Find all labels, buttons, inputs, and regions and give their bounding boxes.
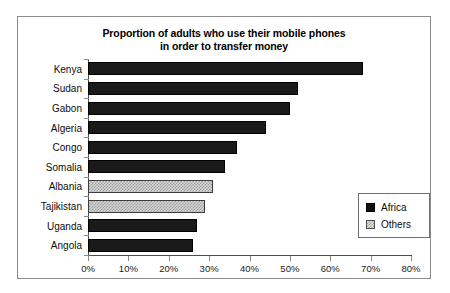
chart-frame: Proportion of adults who use their mobil… xyxy=(17,16,431,279)
category-label-kenya: Kenya xyxy=(54,63,82,74)
x-axis-tick xyxy=(290,256,291,261)
bar-sudan xyxy=(88,82,298,95)
category-label-uganda: Uganda xyxy=(47,220,82,231)
x-axis-tick xyxy=(411,256,412,261)
legend-item-africa: Africa xyxy=(366,199,429,216)
category-label-gabon: Gabon xyxy=(52,103,82,114)
x-axis-tick xyxy=(88,256,89,261)
x-axis-tick-label: 0% xyxy=(81,263,95,274)
category-label-angola: Angola xyxy=(51,240,82,251)
x-axis-tick-label: 40% xyxy=(240,263,259,274)
x-axis-tick-label: 30% xyxy=(200,263,219,274)
legend-swatch-others xyxy=(366,220,375,229)
x-axis-tick xyxy=(250,256,251,261)
bar-somalia xyxy=(88,160,225,173)
bar-tajikistan xyxy=(88,200,205,213)
bar-kenya xyxy=(88,62,363,75)
x-axis-tick-label: 70% xyxy=(361,263,380,274)
x-axis-tick xyxy=(169,256,170,261)
category-label-tajikistan: Tajikistan xyxy=(41,201,82,212)
bar-angola xyxy=(88,239,193,252)
bar-gabon xyxy=(88,102,290,115)
x-axis-tick-label: 80% xyxy=(401,263,420,274)
category-label-somalia: Somalia xyxy=(46,161,82,172)
bar-uganda xyxy=(88,219,197,232)
bar-algeria xyxy=(88,121,266,134)
legend-label-others: Others xyxy=(381,219,411,230)
legend-swatch-africa xyxy=(366,203,375,212)
x-axis-tick-label: 10% xyxy=(119,263,138,274)
x-axis-tick xyxy=(330,256,331,261)
x-axis-tick-label: 60% xyxy=(321,263,340,274)
legend-label-africa: Africa xyxy=(381,202,407,213)
x-axis-tick xyxy=(128,256,129,261)
x-axis-tick-label: 50% xyxy=(280,263,299,274)
category-label-albania: Albania xyxy=(49,181,82,192)
x-axis-tick xyxy=(209,256,210,261)
legend-item-others: Others xyxy=(366,216,429,233)
category-label-congo: Congo xyxy=(53,142,82,153)
x-axis-tick-label: 20% xyxy=(159,263,178,274)
chart-legend: Africa Others xyxy=(358,193,430,238)
category-label-sudan: Sudan xyxy=(53,83,82,94)
bar-congo xyxy=(88,141,237,154)
x-axis-tick xyxy=(371,256,372,261)
category-axis-labels: KenyaSudanGabonAlgeriaCongoSomaliaAlbani… xyxy=(18,17,82,280)
bar-albania xyxy=(88,180,213,193)
category-label-algeria: Algeria xyxy=(51,122,82,133)
